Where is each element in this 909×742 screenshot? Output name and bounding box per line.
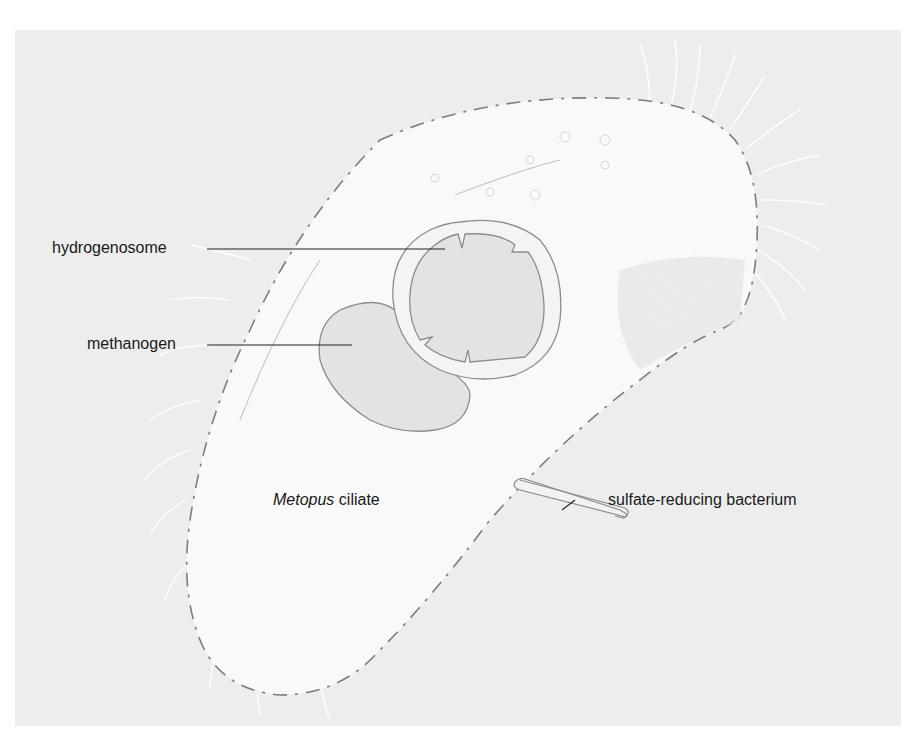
label-ciliate-suffix: ciliate [334, 491, 379, 508]
label-methanogen: methanogen [87, 336, 176, 352]
label-ciliate-genus: Metopus [273, 491, 334, 508]
label-hydrogenosome: hydrogenosome [52, 240, 167, 256]
oral-groove-shadow [618, 257, 746, 370]
ciliate-cell-body [187, 98, 758, 695]
metopus-diagram [0, 0, 909, 742]
hydrogenosome-inner [410, 234, 544, 362]
label-metopus-ciliate: Metopus ciliate [273, 492, 380, 508]
label-sulfate-reducing-bacterium: sulfate-reducing bacterium [608, 492, 797, 508]
